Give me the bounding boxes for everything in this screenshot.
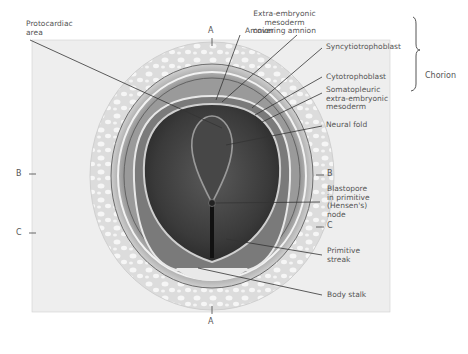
marker-top-a: A — [208, 27, 213, 36]
marker-left-c: C — [16, 229, 22, 238]
label-body-stalk: Body stalk — [327, 291, 366, 300]
label-blastopore: Blastopore in primitive (Hensen's) node — [327, 185, 370, 219]
marker-bottom-a: A — [208, 318, 213, 327]
marker-right-b: B — [327, 170, 333, 179]
label-extra-embryonic-mesoderm-amnion: Extra-embryonic mesoderm covering amnion — [253, 10, 316, 36]
marker-right-c: C — [327, 222, 333, 231]
label-neural-fold: Neural fold — [326, 121, 367, 130]
embryo-diagram: A A B C B C Protocardiac area Amnion Ext… — [0, 0, 468, 354]
label-syncytiotrophoblast: Syncytiotrophoblast — [326, 43, 401, 52]
label-cytotrophoblast: Cytotrophoblast — [326, 73, 386, 82]
label-chorion: Chorion — [425, 72, 456, 81]
label-primitive-streak: Primitive streak — [327, 247, 360, 264]
marker-left-b: B — [16, 170, 22, 179]
diagram-illustration — [0, 0, 468, 354]
label-somatopleuric-mesoderm: Somatopleuric extra-embryonic mesoderm — [326, 86, 388, 112]
label-protocardiac-area: Protocardiac area — [26, 20, 73, 37]
